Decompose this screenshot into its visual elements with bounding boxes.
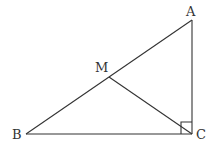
triangle-diagram: A B C M: [0, 0, 212, 151]
segment-mc: [109, 77, 192, 134]
label-m: M: [95, 60, 108, 75]
label-a: A: [185, 4, 196, 19]
label-c: C: [196, 127, 206, 142]
label-b: B: [12, 127, 22, 142]
